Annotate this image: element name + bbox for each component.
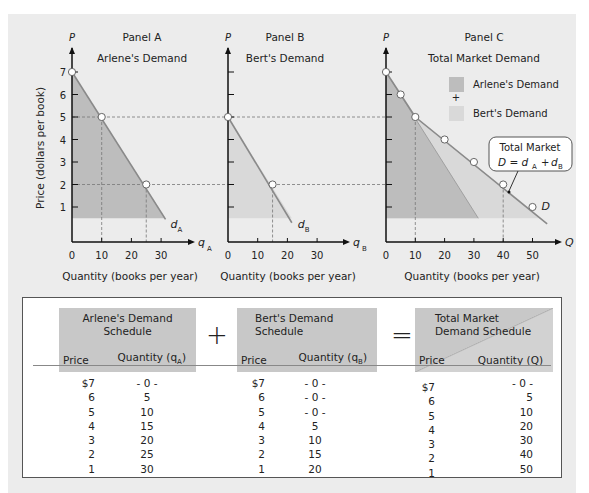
panel-c-data-point: [397, 91, 404, 98]
bert-price-cell: 1: [249, 462, 265, 476]
bert-schedule-header: Bert's Demand Schedule Price Quantity (q…: [237, 308, 377, 372]
arlene-price-column: $7654321: [79, 376, 95, 476]
bert-price-cell: 2: [249, 447, 265, 461]
total-price-cell: $7: [419, 380, 435, 394]
panel-b-label: Panel B: [266, 31, 305, 43]
arlene-quantity-column: - 0 -51015202530: [127, 376, 167, 476]
panel-a-data-point: [143, 181, 150, 188]
demand-schedule-table: Arlene's Demand Schedule Price Quantity …: [22, 297, 562, 478]
panel-b-x-symbol: q: [353, 236, 360, 249]
bert-quantity-cell: 10: [295, 433, 335, 447]
total-title-line2: Demand Schedule: [435, 325, 531, 338]
total-quantity-cell: 10: [493, 405, 533, 419]
panel-c-y-axis-arrow: [383, 47, 389, 54]
arlene-price-cell: 4: [79, 419, 95, 433]
y-tick-label: 2: [60, 180, 66, 191]
panel-b-x-tick-label: 30: [311, 250, 324, 261]
bert-quantity-cell: 20: [295, 462, 335, 476]
panel-c-x-tick-label: 40: [497, 250, 510, 261]
bert-qty-close: ): [363, 351, 367, 363]
bert-quantity-cell: 15: [295, 447, 335, 461]
panel-c-data-point: [529, 203, 536, 210]
arlene-price-cell: 2: [79, 447, 95, 461]
bert-quantity-column: - 0 -- 0 -- 0 -5101520: [295, 376, 335, 476]
demand-charts: 12345670102030PPanel AArlene's DemandQua…: [0, 0, 589, 295]
bert-schedule-title: Bert's Demand Schedule: [255, 312, 333, 338]
legend-swatch: [449, 77, 464, 92]
arlene-quantity-cell: 25: [127, 447, 167, 461]
annotation-pointer-dot: [508, 191, 511, 194]
panel-b-title: Bert's Demand: [246, 52, 324, 64]
panel-a-data-point: [68, 68, 75, 75]
bert-price-cell: 6: [249, 390, 265, 404]
panel-b-x-label: Quantity (books per year): [220, 270, 356, 282]
total-title-line1: Total Market: [435, 312, 531, 325]
y-tick-label: 6: [60, 90, 66, 101]
total-price-cell: 6: [419, 394, 435, 408]
arlene-price-cell: 1: [79, 462, 95, 476]
annotation-line2: D = d: [498, 156, 529, 168]
panel-a-x-tick-label: 20: [125, 250, 138, 261]
legend-swatch: [449, 106, 464, 121]
legend-label: Bert's Demand: [473, 108, 548, 119]
arlene-schedule-title: Arlene's Demand Schedule: [59, 312, 196, 338]
arlene-price-cell: $7: [79, 376, 95, 390]
y-tick-label: 7: [60, 67, 66, 78]
arlene-quantity-cell: 30: [127, 462, 167, 476]
bert-price-cell: 4: [249, 419, 265, 433]
total-price-column: $7654321: [419, 380, 435, 480]
y-axis-label: Price (dollars per book): [34, 87, 46, 209]
bert-quantity-cell: - 0 -: [295, 390, 335, 404]
bert-price-column: $7654321: [249, 376, 265, 476]
total-price-cell: 1: [419, 466, 435, 480]
panel-c-data-point: [500, 181, 507, 188]
panel-c-x-tick-label: 0: [383, 250, 389, 261]
total-quantity-cell: 5: [493, 390, 533, 404]
arlene-quantity-cell: 15: [127, 419, 167, 433]
total-price-cell: 2: [419, 451, 435, 465]
annotation-plus: +: [541, 157, 549, 168]
panel-c-x-axis-arrow: [555, 239, 562, 245]
arlene-quantity-cell: 5: [127, 390, 167, 404]
panel-c-x-tick-label: 10: [409, 250, 422, 261]
annotation-sub-b: B: [558, 163, 563, 171]
arlene-title-line2: Schedule: [59, 325, 196, 338]
total-quantity-cell: 30: [493, 433, 533, 447]
panel-a-x-symbol-subscript: A: [207, 245, 212, 253]
total-quantity-column: - 0 -51020304050: [493, 376, 533, 476]
panel-a-label: Panel A: [123, 31, 163, 43]
bert-title-line1: Bert's Demand: [255, 312, 333, 325]
plus-operator: +: [206, 320, 228, 350]
panel-c-x-symbol: Q: [565, 236, 574, 249]
y-tick-label: 1: [60, 202, 66, 213]
arlene-quantity-cell: - 0 -: [127, 376, 167, 390]
annotation-pointer: [509, 171, 518, 191]
equals-operator: =: [391, 320, 413, 350]
panel-b-x-symbol-subscript: B: [362, 245, 367, 253]
total-quantity-cell: 50: [493, 462, 533, 476]
total-price-cell: 5: [419, 409, 435, 423]
arlene-quantity-cell: 20: [127, 433, 167, 447]
panel-b-data-point: [269, 181, 276, 188]
total-price-cell: 4: [419, 423, 435, 437]
arlene-price-cell: 3: [79, 433, 95, 447]
bert-quantity-cell: 5: [295, 419, 335, 433]
panel-a-data-point: [98, 113, 105, 120]
annotation-d-b: d: [551, 156, 558, 168]
panel-c-data-point: [412, 113, 419, 120]
panel-b-y-axis-arrow: [225, 47, 231, 54]
panel-a-curve-label-sub: A: [178, 226, 183, 234]
annotation-line1: Total Market: [499, 142, 561, 153]
panel-c-data-point: [470, 158, 477, 165]
header-divider: [33, 365, 551, 366]
panel-c-data-point: [441, 136, 448, 143]
arlene-qty-close: ): [182, 351, 186, 363]
arlene-price-cell: 6: [79, 390, 95, 404]
panel-a-x-label: Quantity (books per year): [62, 270, 198, 282]
arlene-quantity-cell: 10: [127, 405, 167, 419]
panel-a-x-tick-label: 0: [69, 250, 75, 261]
panel-a-x-tick-label: 30: [155, 250, 168, 261]
panel-c-data-point: [382, 68, 389, 75]
bert-quantity-cell: - 0 -: [295, 405, 335, 419]
bert-quantity-cell: - 0 -: [295, 376, 335, 390]
